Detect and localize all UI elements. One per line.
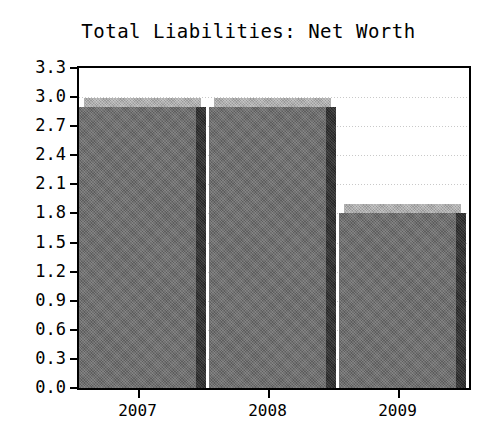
y-axis-tick [70,387,77,389]
y-axis-tick [70,271,77,273]
bar-side-face [456,213,466,388]
x-axis-tick [268,390,270,398]
bar-2009[interactable] [339,204,466,388]
y-axis-tick [70,96,77,98]
y-axis-tick [70,212,77,214]
plot-inner [79,68,469,388]
bar-front-face [339,213,456,388]
chart-title: Total Liabilities: Net Worth [0,20,497,42]
bar-front-face [79,107,196,388]
bar-side-face [326,107,336,388]
y-axis-label: 1.5 [0,234,66,251]
y-axis-tick [70,67,77,69]
y-axis-label: 2.7 [0,117,66,134]
bar-side-face [196,107,206,388]
x-axis-label-2007: 2007 [118,401,157,420]
y-axis-label: 0.0 [0,379,66,396]
y-axis-tick [70,183,77,185]
y-axis-tick [70,300,77,302]
y-axis-label: 0.3 [0,350,66,367]
x-axis-label-2008: 2008 [248,401,287,420]
bar-top-face [344,204,461,213]
y-axis-tick [70,154,77,156]
bar-2007[interactable] [79,98,206,388]
y-axis-tick [70,329,77,331]
y-axis-label: 0.9 [0,292,66,309]
bar-top-face [214,98,331,107]
y-axis-label: 3.3 [0,59,66,76]
y-axis-tick [70,125,77,127]
y-axis-tick [70,242,77,244]
y-axis-label: 1.8 [0,204,66,221]
y-axis-label: 3.0 [0,88,66,105]
bar-front-face [209,107,326,388]
bar-2008[interactable] [209,98,336,388]
x-axis-label-2009: 2009 [378,401,417,420]
x-axis-tick [398,390,400,398]
y-axis-label: 2.4 [0,146,66,163]
y-axis-label: 1.2 [0,263,66,280]
y-axis-label: 2.1 [0,175,66,192]
y-axis-label: 0.6 [0,321,66,338]
chart-container: Total Liabilities: Net Worth 3.33.02.72.… [0,0,497,447]
x-axis-tick [138,390,140,398]
plot-area [77,66,471,390]
y-axis-tick [70,358,77,360]
bar-top-face [84,98,201,107]
